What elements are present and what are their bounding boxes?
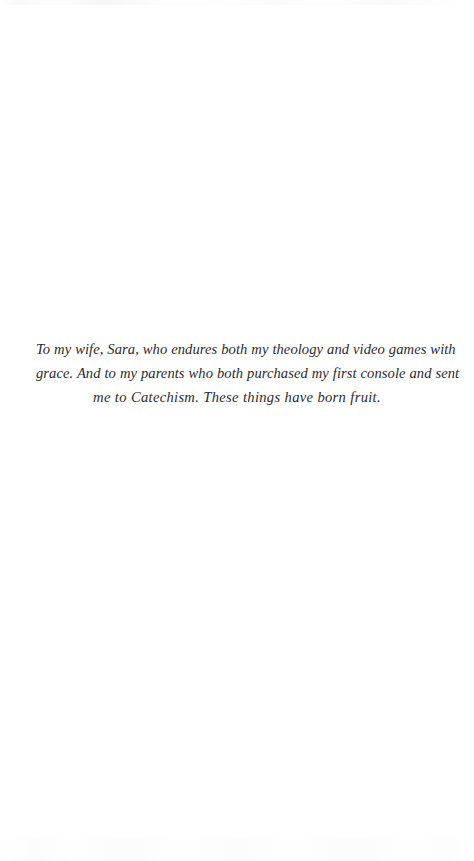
dedication-line-3: me to Catechism. These things have born … bbox=[36, 385, 438, 409]
book-page: To my wife, Sara, who endures both my th… bbox=[0, 0, 474, 861]
scan-artifact-bottom-edge bbox=[0, 839, 474, 861]
dedication-text-block: To my wife, Sara, who endures both my th… bbox=[36, 337, 438, 409]
scan-artifact-top-edge bbox=[0, 0, 474, 5]
dedication-line-1: To my wife, Sara, who endures both my th… bbox=[36, 337, 438, 361]
dedication-line-2: grace. And to my parents who both purcha… bbox=[36, 361, 438, 385]
